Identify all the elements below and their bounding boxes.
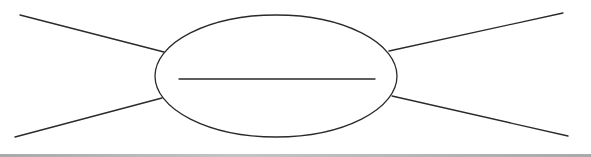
center-ellipse — [155, 15, 397, 137]
bottom-border-bar — [0, 154, 591, 157]
spoke-lower-left — [15, 98, 162, 137]
spoke-upper-left — [20, 15, 164, 52]
spoke-upper-right — [389, 13, 563, 51]
spider-map-diagram — [0, 0, 591, 157]
spoke-lower-right — [392, 96, 568, 136]
